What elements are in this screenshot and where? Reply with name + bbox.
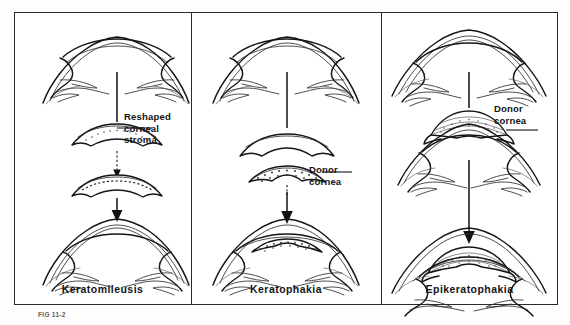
panel-label-keratomileusis: Keratomileusis [14, 283, 191, 295]
callout-reshaped-corneal-stroma: Reshaped corneal stroma [124, 111, 171, 146]
panel-label-epikeratophakia: Epikeratophakia [381, 283, 558, 295]
figure-root: Reshaped corneal stroma Donor cornea Don… [0, 0, 570, 325]
panel-divider-1 [191, 12, 192, 305]
figure-caption-number: FIG 11-2 [38, 311, 66, 318]
callout-line-2: cornea [494, 115, 526, 127]
callout-donor-cornea-epikeratophakia: Donor cornea [494, 103, 526, 126]
callout-line-1: Donor [494, 103, 526, 115]
callout-line-2: cornea [309, 176, 341, 188]
callout-donor-cornea-keratophakia: Donor cornea [309, 164, 341, 187]
panel-label-keratophakia: Keratophakia [191, 283, 381, 295]
callout-line-1: Reshaped [124, 111, 171, 123]
panel-divider-2 [381, 12, 382, 305]
callout-line-3: stroma [124, 134, 171, 146]
callout-line-2: corneal [124, 123, 171, 135]
callout-line-1: Donor [309, 164, 341, 176]
figure-frame [14, 12, 558, 305]
